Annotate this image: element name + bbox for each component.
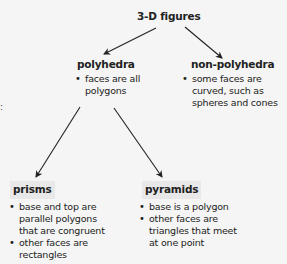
polyhedra-bullet: faces are all polygons (75, 73, 140, 97)
non-polyhedra-label: non-polyhedra (191, 58, 274, 71)
polyhedra-label: polyhedra (77, 58, 135, 71)
pyramids-bullet: other faces are triangles that meet at o… (139, 213, 237, 249)
arrow-root-to-non-polyhedra (185, 27, 222, 58)
non-polyhedra-bullet: some faces are curved, such as spheres a… (182, 73, 278, 109)
arrow-polyhedra-to-prisms (36, 107, 80, 177)
arrow-polyhedra-to-pyramids (114, 108, 162, 177)
pyramids-bullets: base is a polygon other faces are triang… (139, 201, 237, 249)
arrow-root-to-polyhedra (104, 28, 156, 54)
edge-mark: : (0, 106, 2, 112)
prisms-label: prisms (10, 181, 55, 199)
prisms-bullet: other faces are rectangles (9, 237, 105, 261)
pyramids-label: pyramids (142, 181, 201, 199)
polyhedra-bullets: faces are all polygons (75, 73, 140, 97)
prisms-bullets: base and top are parallel polygons that … (9, 201, 105, 261)
prisms-bullet: base and top are parallel polygons that … (9, 201, 105, 237)
root-label: 3-D figures (137, 10, 201, 23)
pyramids-bullet: base is a polygon (139, 201, 237, 213)
non-polyhedra-bullets: some faces are curved, such as spheres a… (182, 73, 278, 109)
